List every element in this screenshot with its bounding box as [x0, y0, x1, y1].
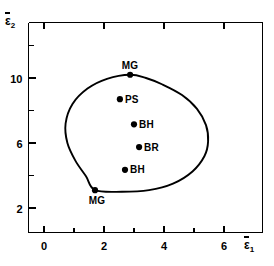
x-tick-label: 0	[41, 240, 47, 252]
y-tick-label: 6	[16, 138, 22, 150]
epsilon-bar-glyph: ε	[244, 238, 250, 252]
y-tick-label: 10	[10, 73, 22, 85]
scatter-plot: 02462610 MGPSBHBRBHMG	[0, 0, 274, 266]
data-point-marker	[127, 72, 133, 78]
data-point-label: BH	[139, 119, 154, 130]
x-tick-label: 2	[101, 240, 107, 252]
x-tick-label: 6	[221, 240, 227, 252]
data-point-marker	[92, 187, 98, 193]
x-tick-label: 4	[161, 240, 168, 252]
y-tick-label: 2	[16, 203, 22, 215]
x-axis-title: ε1	[244, 238, 254, 254]
data-point-marker	[122, 167, 128, 173]
x-axis-subscript: 1	[250, 245, 254, 254]
figure-container: 02462610 MGPSBHBRBHMG ε2 ε1	[0, 0, 274, 266]
epsilon-bar-glyph: ε	[5, 14, 11, 28]
data-point-label: MG	[122, 60, 139, 71]
data-point-label: MG	[89, 195, 106, 206]
data-point-marker	[131, 121, 137, 127]
data-point-label: PS	[125, 94, 139, 105]
data-point-marker	[117, 96, 123, 102]
y-axis-title: ε2	[5, 14, 15, 30]
data-point-label: BH	[130, 164, 145, 175]
axis-ticks	[29, 23, 225, 233]
data-point-marker	[136, 144, 142, 150]
y-axis-subscript: 2	[11, 21, 15, 30]
data-point-label: BR	[144, 142, 159, 153]
